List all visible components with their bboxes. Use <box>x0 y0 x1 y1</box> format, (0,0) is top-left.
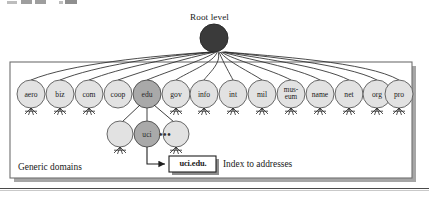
domain-label-pro: pro <box>385 91 413 98</box>
bottom-divider-soft <box>0 190 429 191</box>
subdomain-node-left <box>107 121 133 147</box>
domain-label-info: info <box>190 91 218 98</box>
domain-label-com: com <box>75 91 103 98</box>
generic-domains-caption: Generic domains <box>18 163 82 172</box>
bottom-divider <box>0 188 429 189</box>
domain-label-net: net <box>335 91 363 98</box>
dns-generic-domains-figure: Root level aero biz com coop edu gov inf… <box>0 0 429 197</box>
domain-label-biz: biz <box>46 91 74 98</box>
domain-label-aero: aero <box>17 91 45 98</box>
domain-label-coop: coop <box>104 91 132 98</box>
domain-label-gov: gov <box>162 91 190 98</box>
subdomain-label-uci: uci <box>133 131 161 138</box>
domain-label-museum: mus- eum <box>277 87 305 100</box>
domain-label-name: name <box>306 91 334 98</box>
domain-label-mil: mil <box>248 91 276 98</box>
root-node <box>200 24 228 52</box>
root-level-caption: Root level <box>190 13 229 22</box>
domain-label-edu: edu <box>133 91 161 98</box>
uci-edu-box-label: uci.edu. <box>173 160 213 168</box>
domain-label-int: int <box>219 91 247 98</box>
subdomain-ellipsis: ••• <box>159 130 171 140</box>
index-to-addresses-caption: Index to addresses <box>223 160 292 169</box>
